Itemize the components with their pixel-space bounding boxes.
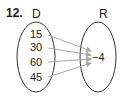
range-label: R (99, 7, 108, 21)
range-value: −4 (92, 51, 105, 63)
problem-number: 12. (6, 6, 23, 20)
domain-value: 60 (30, 56, 42, 68)
domain-value: 30 (30, 41, 42, 53)
domain-value: 45 (30, 71, 42, 83)
domain-value: 15 (30, 28, 42, 40)
domain-label: D (32, 7, 41, 21)
